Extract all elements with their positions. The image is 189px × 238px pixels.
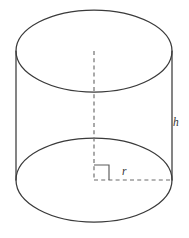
- radius-label: r: [122, 165, 127, 177]
- cylinder-figure: h r: [0, 0, 189, 238]
- height-label: h: [173, 116, 179, 128]
- cylinder-drawing: h r: [0, 0, 189, 238]
